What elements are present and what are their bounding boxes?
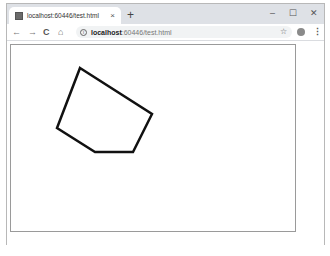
polygon-drawing [0, 0, 330, 256]
pentagon-shape [57, 68, 152, 152]
